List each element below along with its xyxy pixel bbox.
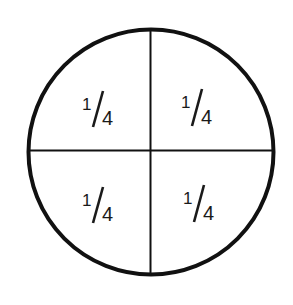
svg-text:1: 1 xyxy=(181,93,190,112)
svg-text:4: 4 xyxy=(201,106,212,128)
svg-text:1: 1 xyxy=(183,189,192,208)
fraction-label-bottom-left: 1 4 xyxy=(82,187,113,225)
fraction-circle-diagram: 1 4 1 4 1 4 1 4 xyxy=(0,0,293,305)
svg-text:4: 4 xyxy=(102,107,113,129)
fraction-label-top-left: 1 4 xyxy=(82,91,113,129)
svg-text:1: 1 xyxy=(82,191,91,210)
fraction-label-top-right: 1 4 xyxy=(181,89,212,128)
svg-text:4: 4 xyxy=(102,203,113,225)
svg-text:1: 1 xyxy=(82,95,91,114)
fraction-label-bottom-right: 1 4 xyxy=(183,185,214,224)
svg-text:4: 4 xyxy=(203,202,214,224)
